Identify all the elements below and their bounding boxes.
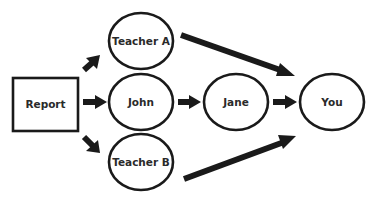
node-you-label: You bbox=[320, 96, 342, 108]
node-jane-label: Jane bbox=[222, 96, 249, 108]
edge-jane-to-you bbox=[273, 95, 297, 109]
edge-report-to-john bbox=[83, 95, 107, 109]
node-john: John bbox=[109, 74, 173, 130]
node-teacher-b: Teacher B bbox=[109, 134, 173, 190]
node-john-label: John bbox=[127, 96, 154, 108]
node-teacher-b-label: Teacher B bbox=[112, 156, 170, 168]
edge-report-to-teacher-b bbox=[84, 137, 100, 153]
node-report: Report bbox=[13, 78, 78, 131]
edge-teacher-b-to-you bbox=[184, 135, 296, 179]
node-you: You bbox=[300, 74, 364, 130]
node-teacher-a-label: Teacher A bbox=[112, 35, 171, 47]
flow-diagram: Report Teacher A John Teacher B Jane You bbox=[0, 0, 372, 199]
node-teacher-a: Teacher A bbox=[109, 13, 173, 69]
edge-john-to-jane bbox=[178, 95, 201, 109]
edge-report-to-teacher-a bbox=[84, 55, 100, 70]
node-jane: Jane bbox=[204, 74, 268, 130]
node-report-label: Report bbox=[25, 98, 65, 110]
edge-teacher-a-to-you bbox=[181, 35, 295, 76]
